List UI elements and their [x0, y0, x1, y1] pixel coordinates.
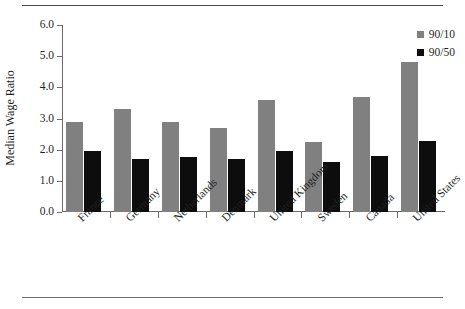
bar-group [158, 25, 206, 212]
chart-legend: 90/1090/50 [417, 29, 455, 64]
y-axis-tick-label: 4.0 [40, 82, 54, 94]
y-axis-tick-label: 0.0 [40, 206, 54, 218]
bar [258, 100, 275, 212]
legend-item: 90/50 [417, 47, 455, 59]
y-axis-tick-mark [57, 212, 62, 213]
bar [66, 122, 83, 212]
bar-group [62, 25, 110, 212]
y-axis-tick-label: 1.0 [40, 175, 54, 187]
legend-item-label: 90/50 [429, 47, 455, 59]
category-separator-tick [301, 212, 302, 218]
category-separator-tick [349, 212, 350, 218]
figure-top-rule [22, 5, 443, 6]
bar-group [349, 25, 397, 212]
legend-swatch-icon [417, 49, 424, 56]
category-separator-tick [206, 212, 207, 218]
category-separator-tick [110, 212, 111, 218]
y-axis-title: Median Wage Ratio [3, 70, 18, 165]
y-axis-tick-label: 3.0 [40, 113, 54, 125]
bar [401, 62, 418, 212]
legend-swatch-icon [417, 31, 424, 38]
plot-area: 0.01.02.03.04.05.06.0 [62, 25, 445, 212]
bar [114, 109, 131, 212]
category-separator-tick [254, 212, 255, 218]
bar-group [254, 25, 302, 212]
bar [353, 97, 370, 212]
y-axis-tick-label: 6.0 [40, 19, 54, 31]
y-axis-tick-label: 2.0 [40, 144, 54, 156]
y-axis-tick-label: 5.0 [40, 50, 54, 62]
category-separator-tick [158, 212, 159, 218]
legend-item-label: 90/10 [429, 29, 455, 41]
category-separator-tick [397, 212, 398, 218]
figure-bottom-rule [22, 297, 443, 298]
bar [162, 122, 179, 212]
bar-group [110, 25, 158, 212]
legend-item: 90/10 [417, 29, 455, 41]
bar [210, 128, 227, 212]
figure: Median Wage Ratio 0.01.02.03.04.05.06.0 … [0, 0, 465, 309]
